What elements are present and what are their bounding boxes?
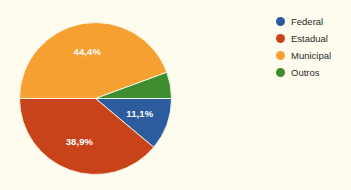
pie-slice-value-label: 11,1% — [126, 108, 153, 119]
legend-item-estadual[interactable]: Estadual — [276, 30, 348, 47]
chart-legend: Federal Estadual Municipal Outros — [276, 13, 348, 81]
legend-swatch-icon — [276, 51, 285, 60]
pie-slice-value-label: 38,9% — [66, 136, 94, 147]
legend-swatch-icon — [276, 34, 285, 43]
pie-chart-plot-area: 11,1%38,9%44,4% — [19, 22, 172, 175]
pie-chart-svg: 11,1%38,9%44,4% — [19, 22, 172, 175]
legend-label: Outros — [291, 67, 320, 78]
legend-label: Federal — [291, 16, 323, 27]
legend-swatch-icon — [276, 17, 285, 26]
legend-item-outros[interactable]: Outros — [276, 64, 348, 81]
pie-slice-value-label: 44,4% — [74, 46, 102, 57]
legend-item-municipal[interactable]: Municipal — [276, 47, 348, 64]
legend-label: Municipal — [291, 50, 331, 61]
legend-swatch-icon — [276, 68, 285, 77]
legend-item-federal[interactable]: Federal — [276, 13, 348, 30]
legend-label: Estadual — [291, 33, 328, 44]
pie-chart-figure: 11,1%38,9%44,4% Federal Estadual Municip… — [0, 0, 351, 190]
